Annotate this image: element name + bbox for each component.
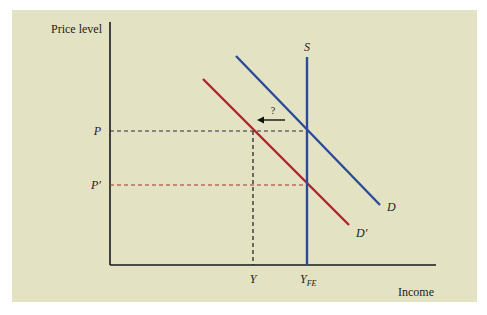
supply-label: S <box>304 40 310 54</box>
demand-label: D <box>386 200 396 214</box>
question-mark-label: ? <box>271 105 276 116</box>
ad-as-diagram: Price level Income S D D′ P P′ Y YFE ? <box>0 0 487 315</box>
arrow-left-icon <box>257 117 264 124</box>
y-axis-label: Price level <box>51 22 103 36</box>
price-p-label: P <box>93 124 102 138</box>
price-p-prime-label: P′ <box>90 178 101 192</box>
demand-shifted-label: D′ <box>355 226 368 240</box>
x-axis-label: Income <box>398 285 434 299</box>
income-y-label: Y <box>250 272 258 286</box>
demand-shifted-curve <box>203 79 349 225</box>
income-yfe-label: YFE <box>300 272 317 288</box>
